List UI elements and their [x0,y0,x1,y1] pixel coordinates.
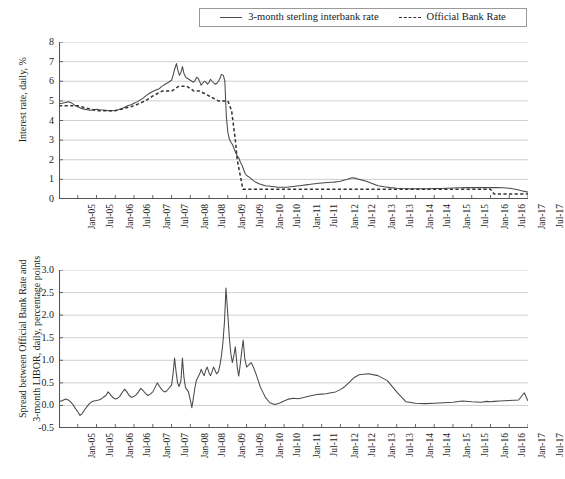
x-tick-label: Jan-13 [388,204,398,229]
x-tick-label: Jul-14 [443,204,453,228]
chart1-x-tick-labels: Jan-05Jul-05Jan-06Jul-06Jan-07Jul-07Jan-… [0,30,542,90]
x-tick-label: Jul-07 [181,204,191,228]
x-tick-label: Jul-17 [556,204,565,228]
x-tick-label: Jul-09 [256,433,266,457]
x-tick-label: Jul-13 [406,433,416,457]
x-tick-label: Jul-16 [518,433,528,457]
x-tick-label: Jul-07 [181,433,191,457]
x-tick-label: Jan-16 [501,204,511,229]
x-tick-label: Jul-11 [330,433,340,456]
x-tick-label: Jul-05 [106,204,116,228]
x-tick-label: Jul-12 [368,204,378,228]
x-tick-label: Jan-14 [426,204,436,229]
x-tick-label: Jan-15 [464,433,474,458]
chart2-x-tick-labels: Jan-05Jul-05Jan-06Jul-06Jan-07Jul-07Jan-… [0,255,542,315]
y-tick-label: 2 [49,155,54,165]
chart-legend: 3-month sterling interbank rate Official… [199,8,527,27]
x-tick-label: Jul-10 [293,433,303,457]
x-tick-label: Jul-13 [406,204,416,228]
x-tick-label: Jan-15 [464,204,474,229]
x-tick-label: Jan-09 [238,433,248,458]
x-tick-label: Jan-17 [539,204,549,229]
x-tick-label: Jan-06 [126,204,136,229]
x-tick-label: Jul-15 [481,204,491,228]
y-tick-label: 4 [49,116,54,126]
x-tick-label: Jul-15 [481,433,491,457]
x-tick-label: Jan-10 [276,433,286,458]
legend-solid-line-swatch [220,17,242,18]
x-tick-label: Jan-06 [126,433,136,458]
x-tick-label: Jan-13 [388,433,398,458]
x-tick-label: Jul-10 [293,204,303,228]
x-tick-label: Jul-08 [218,204,228,228]
x-tick-label: Jul-06 [143,204,153,228]
x-tick-label: Jul-17 [556,433,565,457]
y-tick-label: 3 [49,135,54,145]
x-tick-label: Jul-12 [368,433,378,457]
x-tick-label: Jan-11 [313,433,323,458]
x-tick-label: Jul-11 [330,204,340,227]
x-tick-label: Jan-11 [313,204,323,229]
x-tick-label: Jan-14 [426,433,436,458]
x-tick-label: Jan-16 [501,433,511,458]
libor-spread-chart: Spread between Official Bank Rate and 3-… [0,255,542,479]
y-tick-label: 0 [49,194,54,204]
x-tick-label: Jan-07 [163,204,173,229]
x-tick-label: Jan-05 [88,433,98,458]
y-tick-label: -0.5 [38,423,54,433]
legend-item-interbank-rate: 3-month sterling interbank rate [220,12,378,23]
x-tick-label: Jan-12 [351,433,361,458]
x-tick-label: Jan-08 [201,204,211,229]
legend-label-interbank-rate: 3-month sterling interbank rate [248,12,378,23]
legend-item-official-bank-rate: Official Bank Rate [399,12,506,23]
x-tick-label: Jan-12 [351,204,361,229]
x-tick-label: Jan-17 [539,433,549,458]
x-tick-label: Jul-14 [443,433,453,457]
x-tick-label: Jan-09 [238,204,248,229]
x-tick-label: Jul-08 [218,433,228,457]
interest-rate-chart: Interest rate, daily, % 012345678 Jan-05… [0,30,542,250]
x-tick-label: Jan-05 [88,204,98,229]
x-tick-label: Jul-09 [256,204,266,228]
x-tick-label: Jul-16 [518,204,528,228]
y-tick-label: 1 [49,174,54,184]
y-tick-label: 0.5 [42,378,55,388]
x-tick-label: Jan-10 [276,204,286,229]
legend-dashed-line-swatch [399,17,421,18]
y-tick-label: 1.0 [42,355,55,365]
y-tick-label: 1.5 [42,333,55,343]
legend-label-official-bank-rate: Official Bank Rate [427,12,506,23]
y-tick-label: 0.0 [42,400,55,410]
x-tick-label: Jul-06 [143,433,153,457]
x-tick-label: Jan-07 [163,433,173,458]
x-tick-label: Jul-05 [106,433,116,457]
y-tick-label: 5 [49,96,54,106]
x-tick-label: Jan-08 [201,433,211,458]
